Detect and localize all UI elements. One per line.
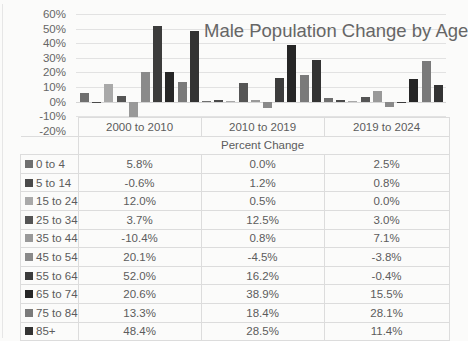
legend-label: 65 to 74 xyxy=(36,288,78,300)
bar xyxy=(251,100,260,101)
legend-label: 75 to 84 xyxy=(36,307,78,319)
bar xyxy=(214,100,223,102)
column-header: 2000 to 2010 xyxy=(78,118,201,137)
y-axis: 60%50%40%30%20%10%0%-10%-20% xyxy=(0,0,74,130)
table-cell: 52.0% xyxy=(78,266,201,285)
legend-key: 75 to 84 xyxy=(21,303,79,322)
table-cell: -10.4% xyxy=(78,229,201,248)
legend-label: 15 to 24 xyxy=(36,195,78,207)
table-cell: 28.5% xyxy=(201,322,324,341)
legend-key: 55 to 64 xyxy=(21,266,79,285)
y-tick-label: 40% xyxy=(6,37,66,49)
legend-label: 85+ xyxy=(36,325,56,337)
table-cell: 15.5% xyxy=(324,285,449,304)
bar xyxy=(434,85,443,102)
table-row: 65 to 7420.6%38.9%15.5% xyxy=(21,285,450,304)
bar xyxy=(348,101,357,102)
table-cell: -0.6% xyxy=(78,173,201,192)
table-cell: 0.8% xyxy=(201,229,324,248)
table-cell: -3.8% xyxy=(324,248,449,267)
gridline xyxy=(76,43,446,44)
table-cell: -4.5% xyxy=(201,248,324,267)
legend-label: 25 to 34 xyxy=(36,214,78,226)
table-cell: 20.1% xyxy=(78,248,201,267)
table-cell: 38.9% xyxy=(201,285,324,304)
table-cell: 1.2% xyxy=(201,173,324,192)
table-header-row: 2000 to 2010 2010 to 2019 2019 to 2024 xyxy=(21,118,450,137)
legend-label: 5 to 14 xyxy=(36,177,71,189)
table-cell: 48.4% xyxy=(78,322,201,341)
table-cell: 0.0% xyxy=(324,192,449,211)
bar xyxy=(312,60,321,102)
table-cell: 0.5% xyxy=(201,192,324,211)
table-row: 75 to 8413.3%18.4%28.1% xyxy=(21,303,450,322)
table-cell: 5.8% xyxy=(78,155,201,174)
bar xyxy=(263,102,272,109)
column-header: 2010 to 2019 xyxy=(201,118,324,137)
bar xyxy=(141,72,150,101)
legend-label: 0 to 4 xyxy=(36,158,65,170)
legend-key: 5 to 14 xyxy=(21,173,79,192)
legend-key: 35 to 44 xyxy=(21,229,79,248)
bar xyxy=(409,79,418,102)
bar xyxy=(178,82,187,101)
table-cell: 18.4% xyxy=(201,303,324,322)
bar xyxy=(117,96,126,101)
gridline xyxy=(76,87,446,88)
legend-swatch-icon xyxy=(25,290,33,298)
legend-swatch-icon xyxy=(25,179,33,187)
legend-key: 25 to 34 xyxy=(21,210,79,229)
gridline xyxy=(76,58,446,59)
legend-swatch-icon xyxy=(25,309,33,317)
table-subheader-row: Percent Change xyxy=(21,136,450,155)
table-row: 45 to 5420.1%-4.5%-3.8% xyxy=(21,248,450,267)
legend-key: 85+ xyxy=(21,322,79,341)
legend-swatch-icon xyxy=(25,272,33,280)
bar xyxy=(165,72,174,102)
table-row: 85+48.4%28.5%11.4% xyxy=(21,322,450,341)
data-table: 2000 to 2010 2010 to 2019 2019 to 2024 P… xyxy=(20,117,450,341)
legend-swatch-icon xyxy=(25,327,33,335)
table-cell: 20.6% xyxy=(78,285,201,304)
chart-title: Male Population Change by Age xyxy=(204,20,468,42)
table-cell: 7.1% xyxy=(324,229,449,248)
legend-key: 15 to 24 xyxy=(21,192,79,211)
table-cell: 3.7% xyxy=(78,210,201,229)
bar xyxy=(104,84,113,102)
legend-key: 65 to 74 xyxy=(21,285,79,304)
table-row: 15 to 2412.0%0.5%0.0% xyxy=(21,192,450,211)
table-cell: 0.0% xyxy=(201,155,324,174)
legend-swatch-icon xyxy=(25,234,33,242)
table-cell: 3.0% xyxy=(324,210,449,229)
legend-label: 55 to 64 xyxy=(36,270,78,282)
legend-key: 0 to 4 xyxy=(21,155,79,174)
bar xyxy=(397,102,406,103)
bar xyxy=(373,91,382,101)
table-cell: 0.8% xyxy=(324,173,449,192)
bar xyxy=(275,78,284,102)
table-row: 0 to 45.8%0.0%2.5% xyxy=(21,155,450,174)
bar xyxy=(324,98,333,102)
legend-swatch-icon xyxy=(25,216,33,224)
bar xyxy=(300,75,309,102)
y-tick-label: 20% xyxy=(6,66,66,78)
table-row: 25 to 343.7%12.5%3.0% xyxy=(21,210,450,229)
bar xyxy=(239,83,248,101)
bar xyxy=(385,102,394,108)
bar xyxy=(422,61,431,102)
column-header: 2019 to 2024 xyxy=(324,118,449,137)
bar xyxy=(92,102,101,103)
gridline xyxy=(76,72,446,73)
y-tick-label: 30% xyxy=(6,52,66,64)
y-tick-label: 50% xyxy=(6,23,66,35)
table-cell: -0.4% xyxy=(324,266,449,285)
legend-label: 45 to 54 xyxy=(36,251,78,263)
legend-swatch-icon xyxy=(25,160,33,168)
bar xyxy=(153,26,162,102)
table-cell: 12.0% xyxy=(78,192,201,211)
table-cell: 11.4% xyxy=(324,322,449,341)
gridline xyxy=(76,14,446,15)
table-cell: 2.5% xyxy=(324,155,449,174)
bar xyxy=(361,97,370,101)
bar xyxy=(202,101,211,102)
